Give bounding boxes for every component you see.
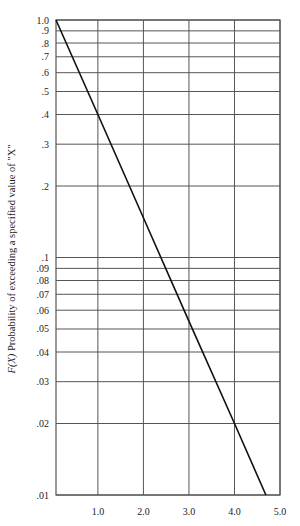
y-tick-label: .9 — [42, 25, 50, 36]
y-tick-labels: 1.0.9.8.7.6.5.4.3.2.1.09.08.07.06.05.04.… — [37, 15, 50, 501]
y-tick-label: .6 — [42, 67, 50, 78]
y-tick-label: .2 — [42, 181, 50, 192]
y-tick-label: 1.0 — [37, 15, 50, 26]
x-tick-label: 3.0 — [183, 506, 196, 517]
y-tick-label: .06 — [37, 305, 50, 316]
x-tick-labels: 1.02.03.04.05.0 — [92, 506, 287, 517]
y-tick-label: .08 — [37, 275, 50, 286]
y-tick-label: .05 — [37, 323, 50, 334]
y-tick-label: .4 — [42, 109, 50, 120]
x-tick-label: 5.0 — [274, 506, 287, 517]
y-tick-label: .1 — [42, 252, 50, 263]
x-tick-label: 2.0 — [137, 506, 150, 517]
y-tick-label: .02 — [37, 418, 50, 429]
y-tick-label: .3 — [42, 139, 50, 150]
y-tick-label: .8 — [42, 38, 50, 49]
grid-lines — [56, 20, 280, 495]
y-tick-label: .7 — [42, 51, 50, 62]
y-axis-label-fx: F(X) — [6, 354, 17, 374]
y-tick-label: .5 — [42, 86, 50, 97]
y-tick-label: .01 — [37, 490, 50, 501]
y-axis-label-text: Probability of exceeding a specified val… — [6, 145, 17, 354]
x-tick-label: 4.0 — [228, 506, 241, 517]
y-tick-label: .04 — [37, 347, 50, 358]
y-tick-label: .09 — [37, 263, 50, 274]
x-tick-label: 1.0 — [92, 506, 105, 517]
y-axis-label: F(X) Probability of exceeding a specifie… — [6, 94, 20, 424]
y-tick-label: .03 — [37, 376, 50, 387]
y-tick-label: .07 — [37, 289, 50, 300]
probability-chart: 1.0.9.8.7.6.5.4.3.2.1.09.08.07.06.05.04.… — [0, 0, 300, 526]
